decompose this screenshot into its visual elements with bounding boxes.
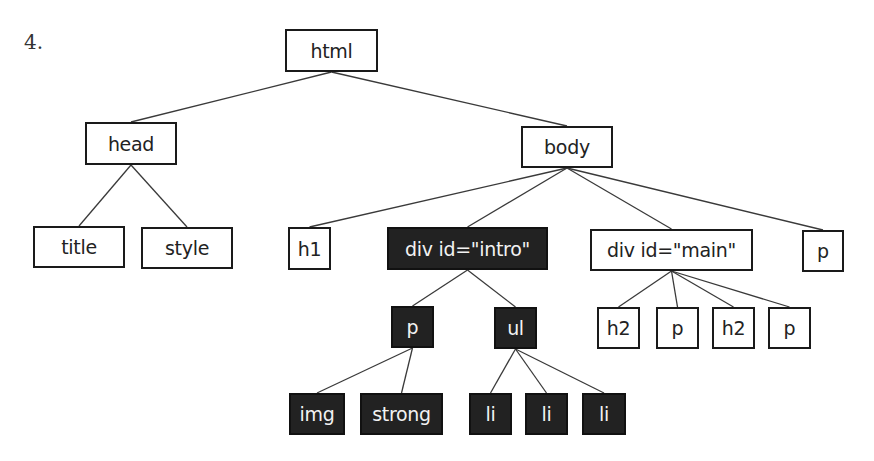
node-li-3: li bbox=[582, 393, 626, 435]
edge-div_intro-p_intro bbox=[413, 270, 468, 306]
node-p-intro: p bbox=[391, 306, 434, 348]
node-body: body bbox=[521, 126, 613, 168]
node-li-1: li bbox=[469, 393, 512, 435]
node-style: style bbox=[141, 227, 233, 269]
figure-number: 4. bbox=[24, 30, 43, 54]
edge-p_intro-strong bbox=[402, 348, 413, 393]
edge-body-p_body bbox=[567, 168, 823, 230]
edge-div_main-h2_b bbox=[672, 271, 734, 307]
node-html: html bbox=[285, 29, 378, 72]
edge-ul-li_1 bbox=[491, 349, 516, 393]
node-h1: h1 bbox=[288, 227, 331, 270]
edge-head-style bbox=[131, 165, 187, 227]
dom-tree-diagram: 4. html head body title style h1 div id=… bbox=[0, 0, 874, 461]
node-p-main-second: p bbox=[768, 307, 811, 349]
edge-html-head bbox=[131, 72, 332, 122]
edge-div_intro-ul bbox=[468, 270, 516, 307]
edge-div_main-h2_a bbox=[619, 271, 672, 307]
node-div-main: div id="main" bbox=[590, 229, 753, 271]
node-h2-second: h2 bbox=[712, 307, 755, 349]
edge-head-title bbox=[79, 165, 131, 226]
node-img: img bbox=[289, 393, 345, 435]
edge-div_main-p_main_a bbox=[672, 271, 678, 307]
node-head: head bbox=[85, 122, 177, 165]
node-p-main-first: p bbox=[656, 307, 699, 349]
edge-body-h1 bbox=[310, 168, 568, 227]
edge-ul-li_2 bbox=[516, 349, 547, 393]
edge-div_main-p_main_b bbox=[672, 271, 790, 307]
node-ul: ul bbox=[494, 307, 537, 349]
node-h2-first: h2 bbox=[597, 307, 640, 349]
edge-ul-li_3 bbox=[516, 349, 605, 393]
node-div-intro: div id="intro" bbox=[387, 227, 548, 270]
node-li-2: li bbox=[525, 393, 568, 435]
node-p-body: p bbox=[802, 230, 844, 272]
node-strong: strong bbox=[360, 393, 443, 435]
node-title: title bbox=[33, 226, 125, 268]
edge-p_intro-img bbox=[317, 348, 413, 393]
edge-body-div_intro bbox=[468, 168, 568, 227]
edge-html-body bbox=[332, 72, 568, 126]
edge-body-div_main bbox=[567, 168, 672, 229]
